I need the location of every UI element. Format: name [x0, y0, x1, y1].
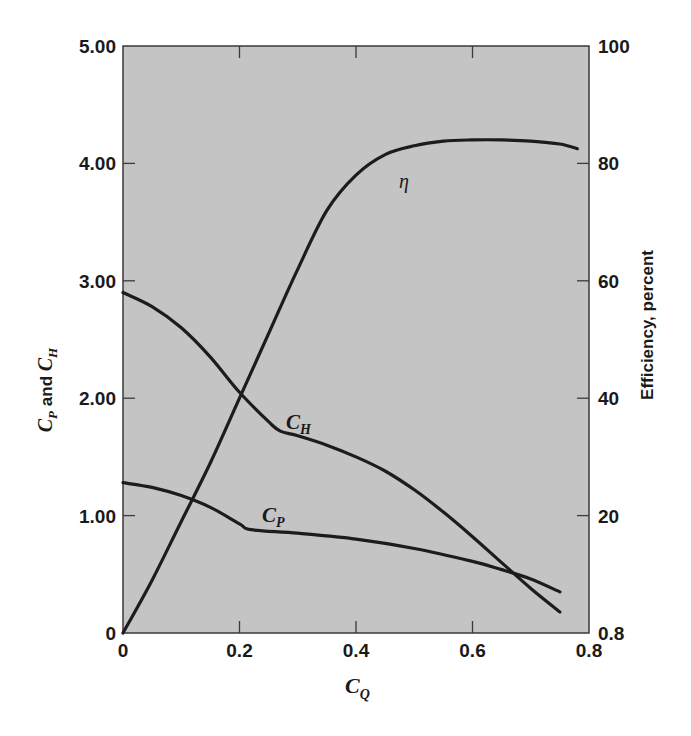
x-tick-label: 0.4 [343, 640, 370, 661]
x-tick-label: 0.2 [226, 640, 252, 661]
y-left-tick-label: 5.00 [79, 36, 116, 57]
y-right-tick-label: 100 [598, 36, 630, 57]
x-tick-label: 0.6 [459, 640, 485, 661]
y-left-tick-label: 3.00 [79, 271, 116, 292]
x-tick-label: 0 [118, 640, 129, 661]
y-axis-left-label: CP and CH [34, 347, 60, 432]
y-right-tick-label: 0.8 [598, 623, 624, 644]
y-axis-right-label: Efficiency, percent [638, 250, 657, 400]
label-eta: η [399, 170, 409, 193]
y-right-tick-label: 20 [598, 506, 619, 527]
y-right-tick-label: 60 [598, 271, 619, 292]
y-left-tick-label: 0 [105, 623, 116, 644]
y-left-tick-label: 4.00 [79, 153, 116, 174]
y-left-tick-label: 1.00 [79, 506, 116, 527]
y-left-tick-label: 2.00 [79, 388, 116, 409]
y-right-tick-label: 80 [598, 153, 619, 174]
y-right-tick-label: 40 [598, 388, 619, 409]
chart: 00.20.40.60.801.002.003.004.005.000.8204… [0, 0, 691, 736]
x-axis-label: CQ [345, 673, 370, 702]
